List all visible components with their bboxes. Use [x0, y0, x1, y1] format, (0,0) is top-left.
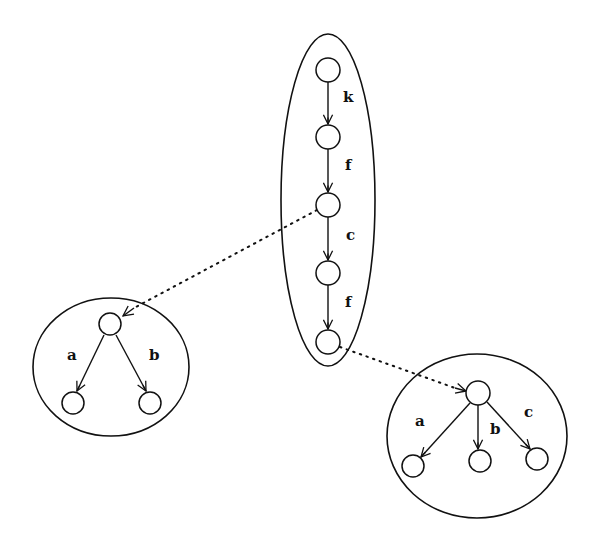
right-child-c-node [526, 448, 548, 470]
chain-node-2 [316, 125, 340, 149]
dotted-link-to-right [340, 347, 455, 388]
chain-node-3 [316, 193, 340, 217]
right-label-b: b [490, 420, 501, 438]
chain-node-5 [316, 330, 340, 354]
left-root-node [99, 313, 121, 335]
chain-label-f2: f [345, 293, 353, 311]
right-root-node [466, 381, 490, 405]
right-child-b-node [469, 450, 491, 472]
chain-label-k: k [343, 88, 354, 106]
chain-label-f1: f [345, 156, 353, 174]
right-label-c: c [524, 403, 533, 421]
left-child-a-node [62, 392, 84, 414]
dotted-link-right-arrowhead [455, 388, 466, 391]
left-child-b-node [139, 392, 161, 414]
right-edge-a [421, 403, 470, 457]
dotted-link-left-arrowhead [123, 308, 134, 316]
right-child-a-node [402, 455, 424, 477]
diagram-canvas: k f c f a b a b c [0, 0, 596, 544]
left-edge-a [77, 335, 104, 391]
right-label-a: a [415, 412, 425, 430]
left-label-b: b [149, 346, 160, 364]
chain-node-1 [316, 58, 340, 82]
left-edge-b [116, 335, 146, 391]
chain-label-c: c [346, 226, 355, 244]
left-label-a: a [67, 346, 77, 364]
chain-node-4 [316, 261, 340, 285]
right-cluster-ellipse [387, 354, 567, 518]
